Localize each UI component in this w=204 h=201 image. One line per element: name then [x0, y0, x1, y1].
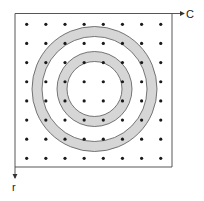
lattice-dot — [63, 42, 66, 45]
lattice-dot — [63, 138, 66, 141]
lattice-dot — [121, 157, 124, 160]
lattice-dot — [159, 157, 162, 160]
lattice-dot — [44, 157, 47, 160]
lattice-dot — [83, 138, 86, 141]
lattice-dot — [121, 118, 124, 121]
lattice-dot — [83, 80, 86, 83]
lattice-dot — [140, 23, 143, 26]
lattice-dot — [83, 157, 86, 160]
lattice-dot — [102, 23, 105, 26]
lattice-dot — [83, 23, 86, 26]
lattice-dot — [44, 118, 47, 121]
lattice-dot — [63, 118, 66, 121]
x-axis-label: C — [186, 8, 194, 20]
lattice-dot — [63, 23, 66, 26]
lattice-dot — [25, 61, 28, 64]
lattice-dot — [121, 99, 124, 102]
lattice-dot — [159, 118, 162, 121]
lattice-dot — [102, 118, 105, 121]
lattice-dot — [159, 80, 162, 83]
lattice-dot — [121, 42, 124, 45]
lattice-dot — [102, 138, 105, 141]
lattice-dot — [140, 99, 143, 102]
lattice-dot — [121, 138, 124, 141]
lattice-dot — [121, 61, 124, 64]
lattice-dot — [159, 138, 162, 141]
lattice-dot — [121, 80, 124, 83]
lattice-dot — [63, 61, 66, 64]
lattice-dot — [44, 138, 47, 141]
lattice-dot — [102, 157, 105, 160]
lattice-dot — [140, 118, 143, 121]
lattice-dot — [140, 80, 143, 83]
lattice-dot — [140, 61, 143, 64]
lattice-dot — [63, 99, 66, 102]
lattice-dot — [25, 80, 28, 83]
rings — [32, 27, 157, 152]
lattice-dot — [25, 118, 28, 121]
outer-ring — [32, 27, 157, 152]
lattice-dot — [25, 99, 28, 102]
lattice-dot — [83, 99, 86, 102]
lattice-dot — [102, 42, 105, 45]
lattice-dot — [25, 157, 28, 160]
lattice-dot — [159, 23, 162, 26]
lattice-dot — [25, 42, 28, 45]
lattice-dot — [83, 42, 86, 45]
lattice-dot — [44, 23, 47, 26]
lattice-dot — [83, 118, 86, 121]
lattice-dot — [102, 80, 105, 83]
lattice-dot — [44, 80, 47, 83]
lattice-dot — [25, 138, 28, 141]
lattice-dot — [83, 61, 86, 64]
inner-ring — [57, 52, 132, 127]
lattice-dot — [102, 99, 105, 102]
y-axis-label: r — [12, 181, 16, 193]
lattice-dot — [102, 61, 105, 64]
lattice-dot — [140, 157, 143, 160]
lattice-dot — [44, 61, 47, 64]
lattice-dot — [121, 23, 124, 26]
lattice-ring-diagram: C r — [0, 0, 204, 201]
lattice-dot — [44, 99, 47, 102]
lattice-dot — [25, 23, 28, 26]
lattice-dot — [159, 42, 162, 45]
lattice-dot — [159, 99, 162, 102]
lattice-dots — [25, 23, 162, 160]
lattice-dot — [44, 42, 47, 45]
lattice-dot — [159, 61, 162, 64]
lattice-dot — [140, 42, 143, 45]
lattice-dot — [63, 80, 66, 83]
lattice-dot — [140, 138, 143, 141]
lattice-dot — [63, 157, 66, 160]
